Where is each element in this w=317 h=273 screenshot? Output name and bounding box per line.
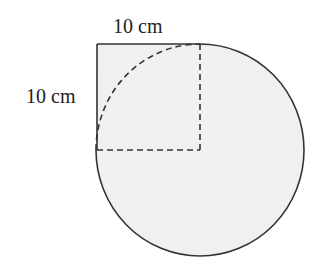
left-length-label: 10 cm [26,85,76,107]
diagram-canvas: 10 cm 10 cm [0,0,317,273]
top-length-label: 10 cm [113,15,163,37]
